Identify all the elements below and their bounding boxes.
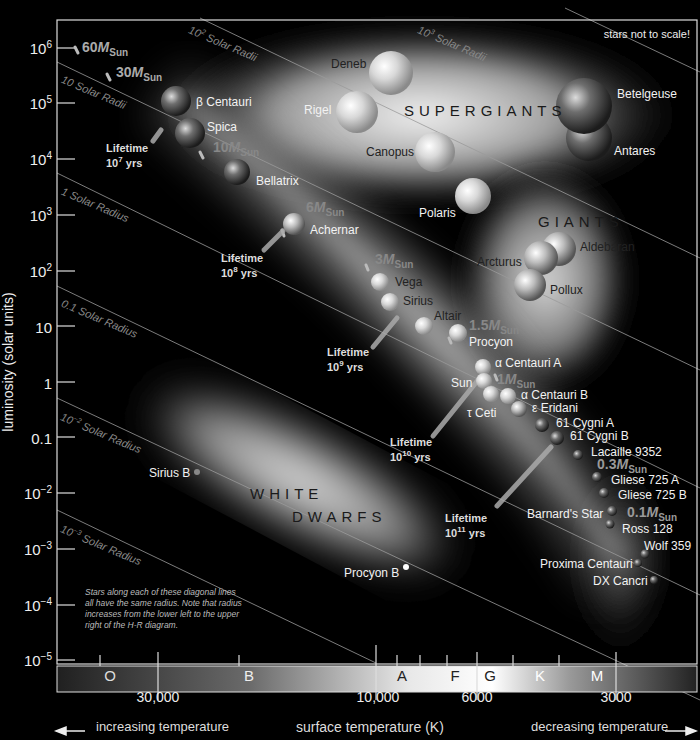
region-dwarfs: DWARFS: [292, 509, 386, 524]
region-white: WHITE: [250, 486, 323, 501]
star-alpha-centauri-a: [475, 359, 491, 375]
label-proxima-centauri: Proxima Centauri: [540, 558, 633, 570]
label-aldebaran: Aldebaran: [580, 241, 635, 253]
spectral-class-b: B: [244, 668, 254, 683]
label-deneb: Deneb: [331, 58, 366, 70]
star-gliese-725b: [599, 488, 609, 498]
star-achernar: [283, 213, 305, 235]
label-antares: Antares: [614, 145, 655, 157]
mass-0-1: 0.1MSun: [627, 505, 677, 523]
label-sun: Sun: [451, 377, 472, 389]
y-tick-1e3: 103: [0, 207, 52, 223]
x-tick-3000: 3000: [600, 690, 631, 704]
label-spica: Spica: [207, 121, 237, 133]
star-epsilon-eridani: [511, 401, 527, 417]
y-tick-1e-4: 10−4: [0, 597, 52, 613]
radius-lines-note: Stars along each of these diagonal lines…: [85, 587, 245, 631]
lifetime-1e8: Lifetime108 yrs: [221, 252, 263, 279]
star-lacaille-9352: [573, 450, 583, 460]
label-altair: Altair: [434, 310, 461, 322]
star-proxima-centauri: [634, 559, 642, 567]
star-pollux: [514, 269, 546, 301]
x-axis-title: surface temperature (K): [296, 720, 444, 734]
y-tick-0-1: 0.1: [0, 430, 52, 446]
star-sirius-b: [194, 469, 200, 475]
label-arcturus: Arcturus: [477, 256, 522, 268]
star-dx-cancri: [650, 576, 658, 584]
star-altair: [415, 317, 433, 335]
scale-note: stars not to scale!: [604, 28, 690, 40]
star-procyon: [449, 324, 467, 342]
mass-3: 3MSun: [375, 252, 413, 270]
mass-10: 10MSun: [213, 140, 259, 158]
lifetime-1e7: Lifetime107 yrs: [106, 142, 148, 169]
label-61-cygni-a: 61 Cygni A: [556, 417, 614, 429]
spectral-class-a: A: [397, 668, 407, 683]
lifetime-1e9: Lifetime109 yrs: [327, 346, 369, 373]
label-61-cygni-b: 61 Cygni B: [570, 430, 629, 442]
left-arrow-icon: [56, 727, 66, 735]
y-tick-10: 10: [0, 319, 52, 335]
star-deneb: [369, 51, 413, 95]
y-axis-title: luminosity (solar units): [1, 292, 15, 431]
star-bellatrix: [224, 159, 250, 185]
mass-1-5: 1.5MSun: [469, 318, 519, 336]
decreasing-temperature-note: decreasing temperature: [531, 720, 668, 733]
spectral-class-o: O: [104, 668, 116, 683]
increasing-temperature-note: increasing temperature: [96, 720, 229, 733]
label-barnards-star: Barnard's Star: [527, 508, 603, 520]
y-tick-1e2: 102: [0, 263, 52, 279]
label-beta-centauri: β Centauri: [196, 96, 252, 108]
star-sirius: [381, 293, 399, 311]
label-epsilon-eridani: ε Eridani: [532, 402, 578, 414]
right-arrow-icon: [686, 727, 696, 735]
x-tick-10000: 10,000: [357, 690, 400, 704]
x-tick-30000: 30,000: [137, 690, 180, 704]
star-polaris: [455, 178, 491, 214]
hr-diagram: luminosity (solar units) 106 105 104 103…: [0, 0, 700, 740]
label-dx-cancri: DX Cancri: [593, 575, 648, 587]
label-pollux: Pollux: [550, 284, 583, 296]
label-vega: Vega: [395, 276, 422, 288]
y-tick-1e4: 104: [0, 151, 52, 167]
label-ross-128: Ross 128: [622, 523, 673, 535]
spectral-class-g: G: [484, 668, 496, 683]
label-sirius: Sirius: [403, 295, 433, 307]
label-sirius-b: Sirius B: [149, 467, 190, 479]
star-barnards-star: [607, 506, 617, 516]
label-procyon-b: Procyon B: [344, 567, 399, 579]
y-tick-1e6: 106: [0, 40, 52, 56]
y-tick-1: 1: [0, 375, 52, 391]
label-alpha-centauri-a: α Centauri A: [495, 357, 561, 369]
mass-60: 60MSun: [82, 40, 128, 58]
label-achernar: Achernar: [310, 224, 359, 236]
spectral-class-m: M: [591, 668, 604, 683]
star-procyon-b: [403, 564, 409, 570]
star-ross-128: [606, 520, 615, 529]
label-canopus: Canopus: [366, 146, 414, 158]
label-gliese-725a: Gliese 725 A: [611, 474, 679, 486]
label-rigel: Rigel: [304, 104, 331, 116]
y-tick-1e-5: 10−5: [0, 652, 52, 668]
label-betelgeuse: Betelgeuse: [617, 88, 677, 100]
y-tick-marks: [57, 48, 75, 660]
y-tick-1e-2: 10−2: [0, 485, 52, 501]
star-spica: [175, 118, 205, 148]
lifetime-1e10: Lifetime1010 yrs: [390, 436, 432, 463]
star-beta-centauri: [161, 86, 191, 116]
label-lacaille-9352: Lacaille 9352: [591, 446, 662, 458]
label-gliese-725b: Gliese 725 B: [618, 489, 687, 501]
star-vega: [371, 273, 389, 291]
star-alpha-centauri-b: [500, 388, 516, 404]
label-tau-ceti: τ Ceti: [467, 407, 496, 419]
label-bellatrix: Bellatrix: [256, 175, 299, 187]
mass-6: 6MSun: [306, 200, 344, 218]
label-alpha-centauri-b: α Centauri B: [521, 389, 588, 401]
lifetime-1e11: Lifetime1011 yrs: [445, 512, 487, 539]
region-giants: GIANTS: [538, 214, 624, 229]
region-supergiants: SUPERGIANTS: [404, 103, 567, 118]
label-wolf-359: Wolf 359: [644, 540, 691, 552]
spectral-class-f: F: [450, 668, 459, 683]
y-tick-1e-3: 10−3: [0, 541, 52, 557]
y-tick-1e5: 105: [0, 95, 52, 111]
